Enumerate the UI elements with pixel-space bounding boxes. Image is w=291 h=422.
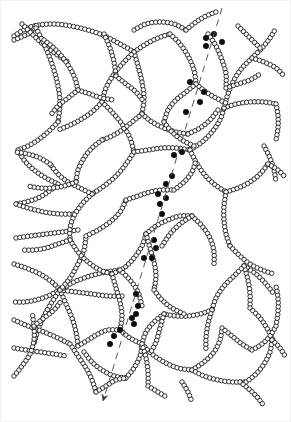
chain-bead bbox=[280, 72, 285, 77]
scission-bead bbox=[153, 245, 158, 250]
polymer-chain bbox=[224, 73, 261, 90]
polymer-chain bbox=[74, 138, 104, 184]
polymer-chain bbox=[110, 272, 124, 330]
polymer-chain bbox=[222, 100, 276, 111]
chain-bead bbox=[13, 300, 17, 305]
polymer-chain bbox=[76, 88, 114, 102]
chain-bead bbox=[62, 353, 67, 358]
polymer-chain bbox=[222, 190, 233, 248]
chain-bead bbox=[272, 29, 277, 33]
chain-bead bbox=[274, 137, 279, 142]
chain-bead bbox=[223, 101, 228, 106]
polymer-chain bbox=[184, 10, 218, 32]
polymer-chain bbox=[22, 238, 72, 253]
scission-bead bbox=[183, 109, 188, 114]
chain-bead bbox=[270, 271, 275, 276]
scission-bead bbox=[149, 255, 154, 260]
chain-bead bbox=[58, 127, 63, 132]
polymer-chain bbox=[58, 100, 105, 132]
scission-bead bbox=[155, 191, 160, 196]
crack-arrow-head bbox=[102, 394, 108, 401]
polymer-chains-layer bbox=[12, 10, 287, 406]
scission-bead bbox=[129, 315, 134, 320]
polymer-chain bbox=[274, 285, 281, 328]
chain-bead bbox=[282, 353, 287, 358]
chain-bead bbox=[189, 397, 194, 402]
polymer-chain bbox=[206, 32, 229, 87]
chain-bead bbox=[274, 285, 279, 290]
polymer-chain bbox=[101, 112, 144, 142]
chain-bead bbox=[270, 290, 275, 295]
polymer-chain bbox=[236, 24, 263, 51]
chain-bead bbox=[281, 173, 286, 178]
polymer-chain bbox=[250, 56, 285, 77]
chain-bead bbox=[260, 401, 265, 406]
chain-bead bbox=[140, 97, 145, 102]
chain-bead bbox=[193, 161, 198, 166]
chain-bead bbox=[182, 312, 187, 317]
chain-bead bbox=[216, 108, 221, 113]
chain-bead bbox=[273, 177, 278, 182]
polymer-chain bbox=[224, 163, 270, 195]
scission-bead bbox=[203, 43, 208, 48]
polymer-chain bbox=[124, 345, 144, 380]
polymer-chain bbox=[32, 300, 63, 328]
scission-bead bbox=[219, 39, 224, 44]
scission-bead bbox=[141, 255, 146, 260]
scission-bead bbox=[171, 152, 176, 157]
polymer-chain bbox=[190, 214, 217, 266]
scission-bead bbox=[117, 327, 122, 332]
polymer-chain bbox=[172, 161, 198, 192]
scission-bead bbox=[131, 321, 136, 326]
network-canvas bbox=[0, 0, 291, 422]
polymer-chain bbox=[168, 32, 198, 83]
polymer-chain bbox=[12, 22, 133, 53]
polymer-network-figure bbox=[0, 0, 291, 422]
chain-bead bbox=[109, 97, 114, 102]
polymer-chain bbox=[18, 120, 60, 152]
chain-bead bbox=[214, 10, 219, 15]
chain-bead bbox=[121, 376, 126, 381]
scission-bead bbox=[133, 291, 138, 296]
polymer-chain bbox=[152, 288, 186, 316]
scission-bead bbox=[187, 79, 192, 84]
polymer-chain bbox=[162, 82, 198, 124]
chain-bead bbox=[76, 228, 81, 233]
chain-bead bbox=[204, 346, 209, 351]
chain-bead bbox=[22, 248, 27, 253]
polymer-chain bbox=[49, 163, 94, 196]
scission-bead bbox=[197, 99, 202, 104]
polymer-chain bbox=[50, 88, 81, 116]
polymer-chain bbox=[220, 326, 253, 351]
scission-bead bbox=[179, 149, 184, 154]
polymer-chain bbox=[238, 380, 265, 406]
polymer-chain bbox=[132, 32, 171, 54]
scission-bead bbox=[159, 211, 164, 216]
scission-bead bbox=[135, 303, 140, 308]
polymer-chain bbox=[132, 20, 188, 33]
polymer-chain bbox=[210, 264, 246, 312]
polymer-chain bbox=[14, 202, 76, 217]
chain-bead bbox=[192, 144, 197, 149]
polymer-chain bbox=[132, 50, 146, 116]
polymer-chain bbox=[12, 346, 67, 358]
chain-bead bbox=[212, 261, 217, 266]
chain-bead bbox=[15, 150, 20, 155]
polymer-chain bbox=[180, 380, 193, 402]
chain-bead bbox=[50, 111, 55, 116]
chain-bead bbox=[30, 313, 35, 318]
chain-bead bbox=[256, 73, 261, 78]
chain-bead bbox=[258, 46, 263, 51]
chain-bead bbox=[160, 244, 165, 249]
scission-bead bbox=[107, 341, 112, 346]
chain-bead bbox=[162, 394, 167, 399]
polymer-chain bbox=[274, 102, 281, 141]
scission-bead bbox=[203, 35, 208, 40]
scission-bead bbox=[201, 89, 206, 94]
scission-bead bbox=[111, 333, 116, 338]
chain-bead bbox=[149, 349, 154, 354]
polymer-chain bbox=[91, 150, 136, 196]
polymer-chain bbox=[146, 384, 167, 399]
polymer-chain bbox=[12, 262, 60, 290]
polymer-chain bbox=[84, 199, 128, 239]
